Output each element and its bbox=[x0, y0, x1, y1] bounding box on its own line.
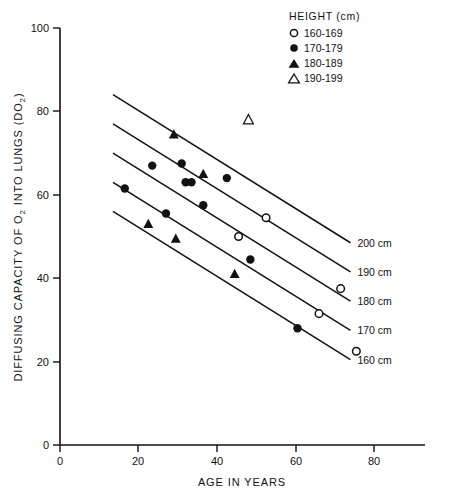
data-point-170-179 bbox=[177, 159, 185, 167]
data-point-170-179 bbox=[199, 201, 207, 209]
data-point-180-189 bbox=[143, 219, 153, 228]
data-point-180-189 bbox=[230, 269, 240, 278]
regression-label-200-cm: 200 cm bbox=[357, 237, 392, 249]
legend: HEIGHT (cm) 160-169 170-179 180-189 190-… bbox=[289, 10, 360, 84]
legend-label-180-189: 180-189 bbox=[304, 57, 343, 69]
legend-marker-filled-triangle-icon bbox=[289, 59, 300, 68]
legend-label-160-169: 160-169 bbox=[304, 27, 343, 39]
data-point-180-189 bbox=[171, 233, 181, 242]
y-axis-title-part-a: DIFFUSING CAPACITY OF O bbox=[12, 215, 24, 382]
legend-marker-open-circle-icon bbox=[290, 29, 297, 36]
data-point-160-169 bbox=[353, 347, 361, 355]
x-axis-title: AGE IN YEARS bbox=[198, 476, 286, 488]
x-tick-label-20: 20 bbox=[132, 455, 144, 467]
data-point-180-189 bbox=[198, 169, 208, 178]
x-tick-label-80: 80 bbox=[368, 455, 380, 467]
data-point-170-179 bbox=[246, 255, 254, 263]
y-axis: 100 80 60 40 20 0 DIFFUSING CAPACITY OF … bbox=[12, 22, 60, 451]
data-point-170-179 bbox=[293, 324, 301, 332]
legend-marker-open-triangle-icon bbox=[289, 74, 300, 83]
data-point-170-179 bbox=[162, 209, 170, 217]
regression-label-160-cm: 160 cm bbox=[357, 354, 392, 366]
data-point-160-169 bbox=[337, 285, 345, 293]
regression-label-170-cm: 170 cm bbox=[357, 324, 392, 336]
data-point-170-179 bbox=[223, 174, 231, 182]
x-tick-label-40: 40 bbox=[211, 455, 223, 467]
y-axis-title: DIFFUSING CAPACITY OF O2 INTO LUNGS (DO2… bbox=[12, 92, 27, 381]
legend-label-190-199: 190-199 bbox=[304, 72, 343, 84]
y-axis-title-part-c: ) bbox=[12, 92, 24, 97]
data-point-160-169 bbox=[235, 233, 243, 241]
y-axis-ticks bbox=[53, 28, 60, 445]
x-axis-ticks bbox=[60, 445, 374, 452]
data-point-160-169 bbox=[262, 214, 270, 222]
x-axis: 0 20 40 60 80 AGE IN YEARS bbox=[57, 445, 425, 488]
y-tick-label-100: 100 bbox=[31, 22, 49, 34]
x-tick-label-0: 0 bbox=[57, 455, 63, 467]
y-tick-label-60: 60 bbox=[37, 189, 49, 201]
data-point-190-199 bbox=[243, 115, 253, 124]
legend-title: HEIGHT (cm) bbox=[289, 10, 360, 22]
chart-canvas: HEIGHT (cm) 160-169 170-179 180-189 190-… bbox=[0, 0, 453, 496]
regression-line-170-cm bbox=[113, 182, 350, 330]
data-point-170-179 bbox=[121, 184, 129, 192]
regression-line-160-cm bbox=[113, 211, 350, 359]
y-tick-label-80: 80 bbox=[37, 105, 49, 117]
data-point-160-169 bbox=[315, 310, 323, 318]
y-tick-label-40: 40 bbox=[37, 272, 49, 284]
regression-label-190-cm: 190 cm bbox=[357, 266, 392, 278]
y-tick-label-20: 20 bbox=[37, 356, 49, 368]
y-axis-title-part-b: INTO LUNGS (DO bbox=[12, 102, 24, 209]
regression-line-labels: 200 cm190 cm180 cm170 cm160 cm bbox=[357, 237, 392, 366]
data-point-170-179 bbox=[187, 178, 195, 186]
regression-line-190-cm bbox=[113, 124, 350, 272]
x-tick-label-60: 60 bbox=[290, 455, 302, 467]
legend-marker-filled-circle-icon bbox=[290, 44, 298, 52]
y-tick-label-0: 0 bbox=[43, 439, 49, 451]
chart-figure: HEIGHT (cm) 160-169 170-179 180-189 190-… bbox=[0, 0, 453, 496]
legend-label-170-179: 170-179 bbox=[304, 42, 343, 54]
data-point-170-179 bbox=[148, 161, 156, 169]
regression-label-180-cm: 180 cm bbox=[357, 295, 392, 307]
